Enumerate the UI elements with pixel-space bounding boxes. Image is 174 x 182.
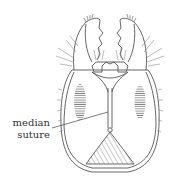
left-stemmata-patch [74,84,86,120]
right-stemmata-patch [135,85,146,119]
occipital-hatched-area [86,132,134,164]
mandibles [74,14,147,92]
median-suture [108,88,112,132]
head-capsule-diagram: median suture [0,0,174,182]
median-suture-label-line2: suture [4,129,50,140]
head-capsule-illustration [0,0,174,182]
median-suture-label-line1: median [4,117,50,128]
setae [56,36,164,132]
